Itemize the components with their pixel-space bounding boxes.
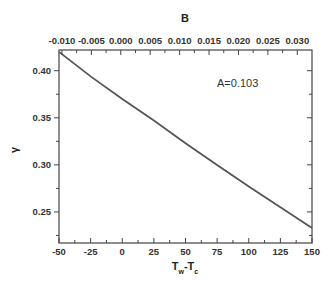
x-title-sub2: c — [194, 268, 198, 275]
chart: -50-250255075100125150 -0.010-0.0050.000… — [0, 0, 334, 293]
x-tick-label: 125 — [272, 246, 289, 257]
x-tick-label: 75 — [212, 246, 223, 257]
x2-tick-label: -0.010 — [48, 35, 75, 46]
plot-border — [59, 50, 312, 243]
x-axis-title: Tw-Tc — [172, 260, 199, 275]
series-layer — [59, 52, 312, 228]
x-tick-label: 150 — [304, 246, 320, 257]
x-tick-label: 50 — [180, 246, 191, 257]
top-axis: -0.010-0.0050.0000.0050.0100.0150.0200.0… — [48, 35, 309, 55]
right-axis — [307, 71, 312, 236]
x-tick-label: 25 — [149, 246, 160, 257]
x2-tick-label: 0.000 — [109, 35, 133, 46]
series-line — [59, 52, 312, 228]
y-tick-label: 0.35 — [33, 112, 52, 123]
x2-tick-label: 0.005 — [138, 35, 162, 46]
top-axis-title: B — [181, 12, 189, 24]
x2-tick-label: 0.025 — [256, 35, 280, 46]
x2-tick-label: 0.015 — [197, 35, 221, 46]
left-axis: 0.250.300.350.40 — [33, 65, 60, 235]
plot-frame — [59, 50, 312, 243]
y-axis-title: γ — [8, 146, 20, 153]
annotation-a-value: A=0.103 — [217, 77, 258, 89]
x-tick-label: 100 — [241, 246, 257, 257]
y-tick-label: 0.40 — [33, 65, 52, 76]
x2-tick-label: 0.010 — [168, 35, 192, 46]
x2-tick-label: 0.030 — [285, 35, 309, 46]
x-tick-label: -50 — [52, 246, 66, 257]
x-tick-label: 0 — [120, 246, 125, 257]
y-tick-label: 0.25 — [33, 206, 52, 217]
x2-tick-label: -0.005 — [78, 35, 106, 46]
y-tick-label: 0.30 — [33, 159, 52, 170]
x2-tick-label: 0.020 — [227, 35, 251, 46]
x-title-mid: -T — [184, 260, 195, 272]
svg-text:Tw-Tc: Tw-Tc — [172, 260, 199, 275]
x-tick-label: -25 — [84, 246, 98, 257]
bottom-axis: -50-250255075100125150 — [52, 238, 320, 257]
